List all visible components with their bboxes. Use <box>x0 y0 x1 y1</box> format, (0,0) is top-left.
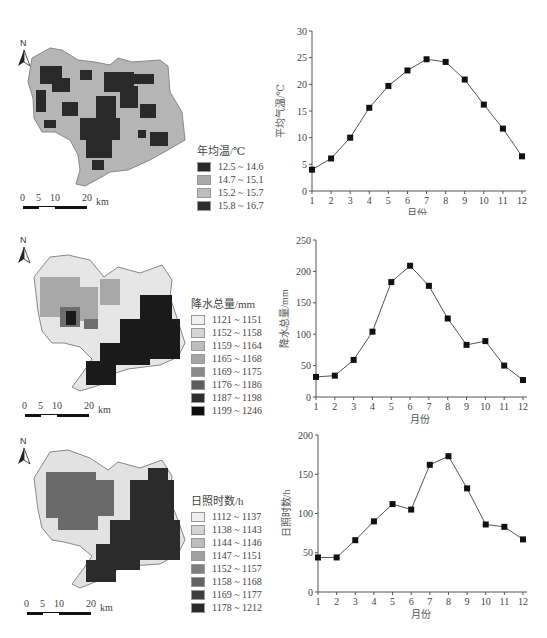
legend-swatch <box>191 551 205 561</box>
temperature-panel: N 年均温/℃ 12.5 ~ 14.6 14.7 ~ 15.1 15.2 ~ 1… <box>0 0 547 215</box>
svg-text:8: 8 <box>443 195 448 206</box>
svg-text:12: 12 <box>518 596 528 607</box>
svg-text:0: 0 <box>302 186 307 197</box>
svg-text:10: 10 <box>481 596 491 607</box>
legend-item: 1187 ~ 1198 <box>191 391 262 404</box>
svg-text:100: 100 <box>296 329 311 340</box>
svg-text:150: 150 <box>296 297 311 308</box>
legend-swatch <box>191 380 205 390</box>
svg-text:1: 1 <box>316 596 321 607</box>
legend-swatch <box>197 175 211 185</box>
svg-text:9: 9 <box>464 401 469 412</box>
precipitation-panel: N 降水总量/mm 1121 ~ 1151 1152 ~ 1158 1159 ~… <box>0 215 547 425</box>
svg-text:9: 9 <box>465 596 470 607</box>
precipitation-chart: 050100150200250123456789101112月份降水总量/mm <box>270 215 547 429</box>
legend-item: 1199 ~ 1246 <box>191 404 262 417</box>
legend-swatch <box>191 512 205 522</box>
svg-text:0: 0 <box>308 587 313 598</box>
temperature-legend: 年均温/℃ 12.5 ~ 14.6 14.7 ~ 15.1 15.2 ~ 15.… <box>197 142 263 212</box>
svg-text:6: 6 <box>409 596 414 607</box>
svg-text:3: 3 <box>351 401 356 412</box>
north-arrow-icon <box>18 448 30 464</box>
svg-text:12: 12 <box>517 195 527 206</box>
svg-text:11: 11 <box>500 596 510 607</box>
svg-text:4: 4 <box>367 195 372 206</box>
legend-title: 降水总量/mm <box>191 295 262 311</box>
svg-text:15: 15 <box>297 106 307 117</box>
svg-text:11: 11 <box>498 195 508 206</box>
precipitation-legend: 降水总量/mm 1121 ~ 1151 1152 ~ 1158 1159 ~ 1… <box>191 295 262 417</box>
legend-item: 1152 ~ 1158 <box>191 326 262 339</box>
legend-swatch <box>191 367 205 377</box>
svg-text:2: 2 <box>329 195 334 206</box>
legend-swatch <box>191 525 205 535</box>
legend-swatch <box>191 328 205 338</box>
north-label: N <box>20 235 27 245</box>
north-arrow-icon <box>18 50 30 66</box>
svg-text:3: 3 <box>353 596 358 607</box>
svg-text:12: 12 <box>518 401 528 412</box>
svg-text:0: 0 <box>306 392 311 403</box>
legend-title: 日照时数/h <box>191 492 262 508</box>
sunshine-legend: 日照时数/h 1112 ~ 1137 1138 ~ 1143 1144 ~ 11… <box>191 492 262 614</box>
legend-item: 14.7 ~ 15.1 <box>197 173 263 186</box>
legend-item: 1178 ~ 1212 <box>191 601 262 614</box>
scale-bar: 0 5 10 20 km <box>24 598 114 618</box>
svg-text:8: 8 <box>446 596 451 607</box>
sunshine-chart: 050100150200123456789101112月份日照时数/h <box>270 420 547 638</box>
legend-swatch <box>191 603 205 613</box>
legend-swatch <box>191 354 205 364</box>
legend-swatch <box>191 577 205 587</box>
legend-item: 1138 ~ 1143 <box>191 523 262 536</box>
svg-text:20: 20 <box>297 79 307 90</box>
svg-text:50: 50 <box>303 547 313 558</box>
svg-text:1: 1 <box>314 401 319 412</box>
legend-item: 1147 ~ 1151 <box>191 549 262 562</box>
legend-item: 15.2 ~ 15.7 <box>197 186 263 199</box>
svg-text:2: 2 <box>332 401 337 412</box>
legend-swatch <box>191 315 205 325</box>
svg-text:25: 25 <box>297 52 307 63</box>
svg-text:5: 5 <box>302 159 307 170</box>
svg-text:日照时数/h: 日照时数/h <box>280 490 292 538</box>
svg-text:250: 250 <box>296 235 311 246</box>
precipitation-line-chart: 050100150200250123456789101112月份降水总量/mm <box>270 215 547 425</box>
legend-swatch <box>191 393 205 403</box>
sunshine-line-chart: 050100150200123456789101112月份日照时数/h <box>270 420 547 638</box>
svg-text:1: 1 <box>310 195 315 206</box>
legend-item: 1169 ~ 1177 <box>191 588 262 601</box>
svg-text:150: 150 <box>298 469 313 480</box>
svg-text:4: 4 <box>371 596 376 607</box>
legend-item: 1121 ~ 1151 <box>191 313 262 326</box>
legend-title: 年均温/℃ <box>197 142 263 158</box>
svg-text:6: 6 <box>408 401 413 412</box>
svg-text:30: 30 <box>297 26 307 37</box>
svg-text:6: 6 <box>405 195 410 206</box>
legend-swatch <box>191 341 205 351</box>
scale-bar: 0 5 10 20 km <box>22 400 112 420</box>
legend-swatch <box>191 590 205 600</box>
scale-bar: 0 5 10 20 km <box>20 192 110 212</box>
legend-item: 1112 ~ 1137 <box>191 510 262 523</box>
svg-text:11: 11 <box>499 401 509 412</box>
precipitation-map: N 降水总量/mm 1121 ~ 1151 1152 ~ 1158 1159 ~… <box>0 215 270 425</box>
svg-text:5: 5 <box>389 401 394 412</box>
legend-item: 1152 ~ 1157 <box>191 562 262 575</box>
svg-text:7: 7 <box>424 195 429 206</box>
legend-swatch <box>191 564 205 574</box>
svg-text:10: 10 <box>297 132 307 143</box>
svg-text:5: 5 <box>386 195 391 206</box>
legend-swatch <box>197 201 211 211</box>
svg-text:降水总量/mm: 降水总量/mm <box>278 289 290 348</box>
legend-item: 1144 ~ 1146 <box>191 536 262 549</box>
svg-text:9: 9 <box>462 195 467 206</box>
temperature-chart: 051015202530123456789101112月份平均气温/℃ <box>270 0 547 219</box>
svg-text:2: 2 <box>334 596 339 607</box>
north-arrow-icon <box>18 247 30 263</box>
north-label: N <box>20 38 27 48</box>
legend-item: 15.8 ~ 16.7 <box>197 199 263 212</box>
svg-text:月份: 月份 <box>407 208 427 215</box>
svg-text:10: 10 <box>480 401 490 412</box>
sunshine-panel: N 日照时数/h 1112 ~ 1137 1138 ~ 1143 1144 ~ … <box>0 420 547 638</box>
legend-item: 1165 ~ 1168 <box>191 352 262 365</box>
